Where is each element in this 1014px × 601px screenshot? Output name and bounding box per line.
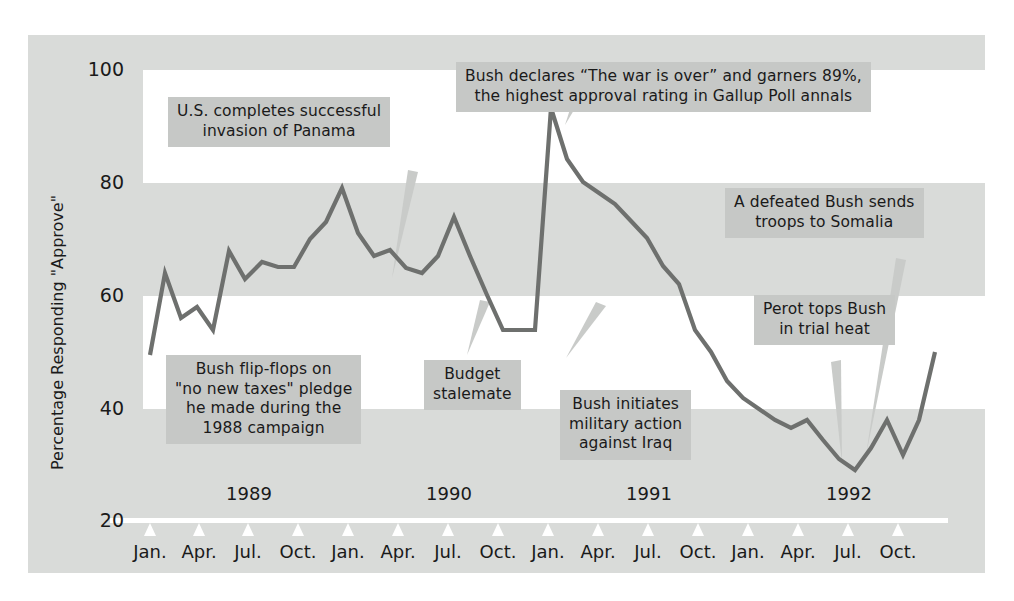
year-label-1989: 1989: [189, 483, 309, 504]
y-tick-40: 40: [78, 397, 124, 419]
y-tick-60: 60: [78, 284, 124, 306]
y-axis-title: Percentage Responding "Approve": [48, 195, 67, 470]
annotation-no-new-taxes: Bush flip-flops on "no new taxes" pledge…: [166, 355, 361, 444]
chart-figure: Percentage Responding "Approve" 100 80 6…: [0, 0, 1014, 601]
year-label-1991: 1991: [589, 483, 709, 504]
annotation-war-is-over: Bush declares “The war is over” and garn…: [456, 62, 871, 112]
year-label-1990: 1990: [389, 483, 509, 504]
annotation-perot: Perot tops Bush in trial heat: [754, 295, 895, 345]
x-tick-label-15: Oct.: [863, 541, 933, 562]
y-tick-80: 80: [78, 171, 124, 193]
annotation-budget-stalemate: Budget stalemate: [424, 360, 521, 410]
annotation-panama: U.S. completes successful invasion of Pa…: [168, 97, 390, 147]
y-tick-100: 100: [78, 58, 124, 80]
annotation-somalia: A defeated Bush sends troops to Somalia: [725, 188, 924, 238]
y-tick-20: 20: [78, 509, 124, 531]
annotation-iraq-action: Bush initiates military action against I…: [560, 390, 691, 460]
year-label-1992: 1992: [789, 483, 909, 504]
